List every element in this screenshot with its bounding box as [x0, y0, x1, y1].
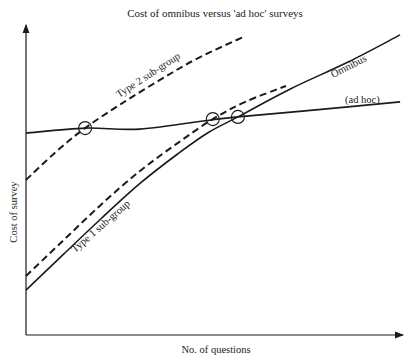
- series-line-ad-hoc: [26, 102, 400, 133]
- cost-comparison-chart: Cost of omnibus versus 'ad hoc' surveys …: [0, 0, 416, 362]
- intersection-markers: [79, 110, 245, 134]
- series-label-ad-hoc: (ad hoc): [345, 94, 380, 106]
- series-line-type-2-sub-group: [26, 36, 245, 180]
- series-line-type-1-sub-group: [26, 86, 286, 276]
- x-axis-label: No. of questions: [181, 344, 250, 355]
- y-axis-label: Cost of survey: [8, 181, 19, 243]
- series-label-type-2: Type 2 sub-group: [114, 50, 182, 99]
- series-label-omnibus: Omnibus: [329, 52, 368, 79]
- chart-title: Cost of omnibus versus 'ad hoc' surveys: [127, 7, 303, 19]
